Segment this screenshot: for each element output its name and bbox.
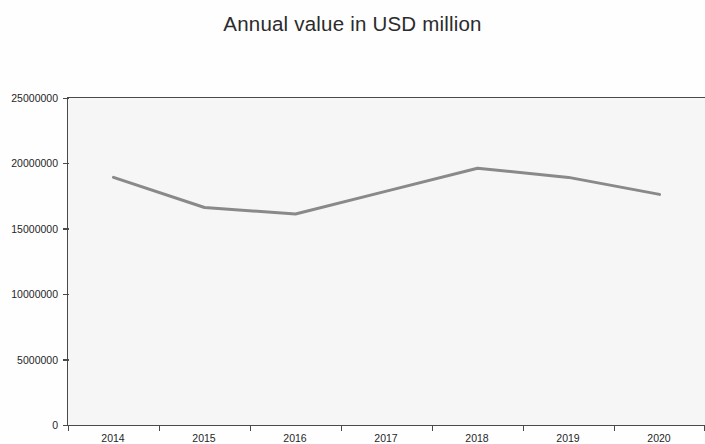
- x-axis-label: 2015: [169, 432, 239, 444]
- x-axis-tick: [614, 425, 615, 431]
- y-axis-label: 15000000: [0, 223, 58, 235]
- x-axis-label: 2016: [260, 432, 330, 444]
- plot-top-border: [67, 97, 705, 98]
- y-axis-label: 25000000: [0, 92, 58, 104]
- y-axis-label: 20000000: [0, 157, 58, 169]
- x-axis-label: 2014: [78, 432, 148, 444]
- y-axis-tick: [63, 163, 69, 164]
- x-axis-label: 2017: [351, 432, 421, 444]
- y-axis-label: 0: [0, 419, 58, 431]
- y-axis-tick: [63, 98, 69, 99]
- x-axis-line: [67, 425, 705, 426]
- x-axis-label: 2018: [442, 432, 512, 444]
- x-axis-tick: [250, 425, 251, 431]
- x-axis-tick: [68, 425, 69, 431]
- x-axis-label: 2020: [624, 432, 694, 444]
- y-axis-tick: [63, 294, 69, 295]
- y-axis-label: 5000000: [0, 354, 58, 366]
- x-axis-tick: [523, 425, 524, 431]
- plot-area: [68, 98, 705, 425]
- chart-title: Annual value in USD million: [0, 12, 705, 36]
- x-axis-label: 2019: [533, 432, 603, 444]
- x-axis-tick: [159, 425, 160, 431]
- y-axis-tick: [63, 228, 69, 229]
- y-axis-line: [67, 97, 68, 426]
- x-axis-tick: [432, 425, 433, 431]
- y-axis-tick: [63, 359, 69, 360]
- y-axis-label: 10000000: [0, 288, 58, 300]
- x-axis-tick: [341, 425, 342, 431]
